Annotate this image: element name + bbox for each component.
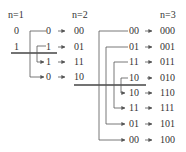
n3-result: 010 [160, 72, 175, 83]
n3-reflected: 01 [129, 41, 139, 52]
n3-result: 110 [160, 87, 175, 98]
n2-result: 00 [74, 25, 84, 36]
n3-reflected: 01 [129, 118, 139, 129]
n2-result: 01 [74, 41, 84, 52]
n3-reflected: 11 [129, 102, 139, 113]
n2-reflected: 0 [46, 71, 51, 82]
header-n1: n=1 [8, 9, 24, 20]
gray-code-diagram: n=1 n=2 n=3 0 1 0 1 1 0 00 01 11 10 00 0… [0, 0, 186, 152]
n3-result: 001 [160, 41, 175, 52]
n1-code: 1 [14, 41, 19, 52]
n2-reflected: 1 [46, 41, 51, 52]
header-n3: n=3 [160, 9, 176, 20]
n3-result: 011 [160, 56, 175, 67]
n3-result: 100 [160, 134, 175, 145]
arrows-n2 [58, 31, 65, 77]
n3-reflected: 10 [129, 87, 139, 98]
n3-result: 101 [160, 118, 175, 129]
n3-reflected: 11 [129, 56, 139, 67]
n3-result: 111 [160, 102, 174, 113]
arrows-n3 [145, 31, 152, 140]
n2-result: 11 [74, 56, 84, 67]
n3-reflected: 00 [129, 134, 139, 145]
n2-result: 10 [74, 71, 84, 82]
n3-result: 000 [160, 25, 175, 36]
n2-reflected: 0 [46, 25, 51, 36]
header-n2: n=2 [72, 9, 88, 20]
n1-code: 0 [14, 25, 19, 36]
connectors-n1-n2 [30, 31, 46, 77]
n3-reflected: 10 [129, 72, 139, 83]
n2-reflected: 1 [46, 56, 51, 67]
n3-reflected: 00 [129, 25, 139, 36]
